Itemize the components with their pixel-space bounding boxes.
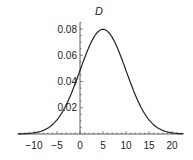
density-curve bbox=[18, 29, 184, 134]
x-tick-label: −10 bbox=[26, 140, 43, 151]
chart-title: D bbox=[95, 5, 103, 17]
y-tick-label: 0.08 bbox=[58, 24, 78, 35]
y-tick-label: 0.02 bbox=[58, 102, 78, 113]
x-tick-label: 0 bbox=[77, 140, 83, 151]
x-tick-label: 20 bbox=[166, 140, 178, 151]
x-tick-label: 10 bbox=[120, 140, 132, 151]
x-tick-label: −5 bbox=[51, 140, 63, 151]
x-tick-label: 15 bbox=[143, 140, 155, 151]
ticks bbox=[20, 22, 181, 134]
x-tick-label: 5 bbox=[100, 140, 106, 151]
axes bbox=[18, 22, 184, 134]
normal-density-chart: D −10−5051015200.020.040.060.08 bbox=[0, 0, 193, 160]
tick-labels: −10−5051015200.020.040.060.08 bbox=[26, 24, 178, 152]
y-tick-label: 0.06 bbox=[58, 50, 78, 61]
